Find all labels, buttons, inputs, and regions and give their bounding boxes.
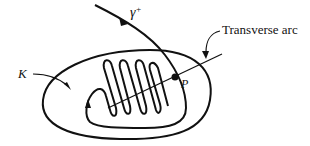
gamma-superscript: + — [136, 4, 142, 14]
point-p-label: P — [180, 77, 189, 91]
region-k-label: K — [17, 66, 28, 81]
gamma-label: γ+ — [130, 4, 142, 20]
region-k-pointer-arrow — [33, 74, 68, 86]
diagram-canvas: γ+ Transverse arc K P — [0, 0, 310, 146]
trajectory-gamma-plus — [86, 5, 186, 128]
transverse-arc-pointer-head-icon — [202, 51, 209, 59]
point-p-marker — [172, 74, 179, 81]
transverse-arc-pointer-arrow — [206, 31, 220, 52]
loop-direction-arrow-icon — [85, 99, 91, 108]
transverse-arc-label: Transverse arc — [222, 22, 298, 37]
